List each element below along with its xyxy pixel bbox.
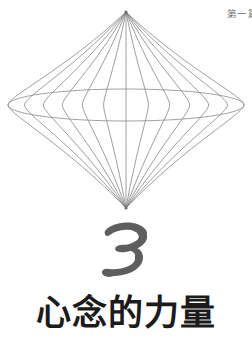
top-apex-point bbox=[124, 10, 127, 13]
meridian-line bbox=[126, 12, 244, 208]
chapter-number-glyph bbox=[91, 214, 161, 284]
meridian-line bbox=[8, 12, 126, 208]
bicone-wireframe-svg bbox=[0, 0, 252, 220]
chapter-number bbox=[0, 214, 252, 286]
chapter-title: 心念的力量 bbox=[0, 292, 252, 334]
meridian-line bbox=[126, 12, 227, 208]
chapter-opener-page: 第一篇 心念的力量 bbox=[0, 0, 252, 338]
meridian-line bbox=[25, 12, 126, 208]
meridian-line bbox=[62, 12, 126, 208]
bottom-apex-point bbox=[124, 206, 127, 209]
bicone-diagram bbox=[0, 0, 252, 220]
meridian-line bbox=[126, 12, 190, 208]
meridian-lines bbox=[8, 12, 244, 208]
